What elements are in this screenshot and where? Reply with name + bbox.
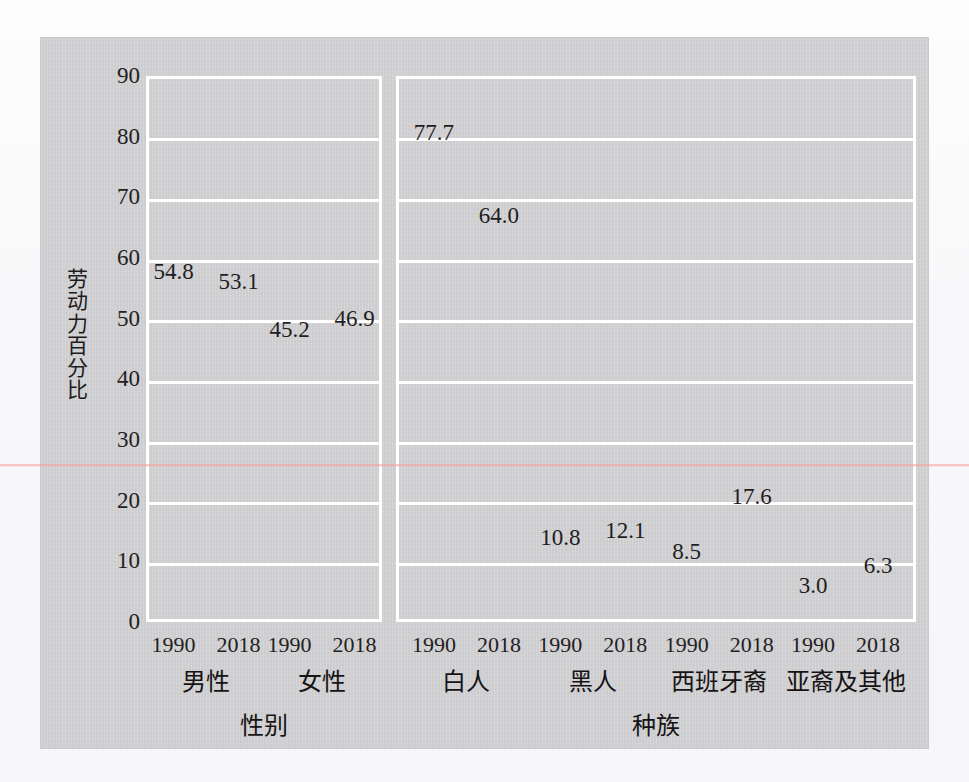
bar-value-label: 64.0 xyxy=(453,203,545,229)
bar xyxy=(731,512,778,619)
plot-area-gender xyxy=(146,76,382,622)
y-axis-tick-label: 0 xyxy=(96,610,140,633)
y-axis-title-char: 百 xyxy=(62,335,92,357)
bar-value-label: 8.5 xyxy=(641,539,733,565)
x-axis-year-label: 2018 xyxy=(832,632,924,658)
y-axis-tick-label: 30 xyxy=(96,428,140,451)
bar xyxy=(478,231,525,619)
y-axis-tick-label: 40 xyxy=(96,367,140,390)
y-axis-title-char: 比 xyxy=(62,379,92,401)
bar xyxy=(540,553,587,619)
y-axis-tick-label: 90 xyxy=(96,64,140,87)
bar xyxy=(153,287,200,619)
x-axis-group-label: 性别 xyxy=(164,706,364,741)
y-axis-tick-label: 50 xyxy=(96,307,140,330)
y-axis-tick-label: 20 xyxy=(96,489,140,512)
y-axis-title-char: 分 xyxy=(62,357,92,379)
x-axis-group-label: 种族 xyxy=(556,706,756,741)
bar xyxy=(218,297,265,619)
bar-value-label: 6.3 xyxy=(832,553,924,579)
bar xyxy=(666,567,713,619)
y-axis-title-char: 力 xyxy=(62,313,92,335)
y-axis-title-char: 劳 xyxy=(62,268,92,290)
bar xyxy=(269,345,316,619)
bar-value-label: 46.9 xyxy=(309,306,401,332)
y-axis-tick-label: 70 xyxy=(96,185,140,208)
chart-figure: 劳动力百分比 9080706050403020100 1990201819902… xyxy=(0,0,969,782)
y-axis-tick-label: 10 xyxy=(96,549,140,572)
y-axis-tick-label: 80 xyxy=(96,125,140,148)
bars-gender xyxy=(149,79,379,619)
bar xyxy=(858,581,905,619)
bar-value-label: 77.7 xyxy=(388,120,480,146)
x-axis-year-label: 2018 xyxy=(309,632,401,658)
bar xyxy=(334,334,381,619)
bar-value-label: 17.6 xyxy=(706,484,798,510)
bar-value-label: 53.1 xyxy=(193,269,285,295)
y-axis-title: 劳动力百分比 xyxy=(62,268,92,402)
x-axis-category-label: 亚裔及其他 xyxy=(756,662,936,697)
y-axis-title-char: 动 xyxy=(62,290,92,312)
bar xyxy=(793,601,840,619)
